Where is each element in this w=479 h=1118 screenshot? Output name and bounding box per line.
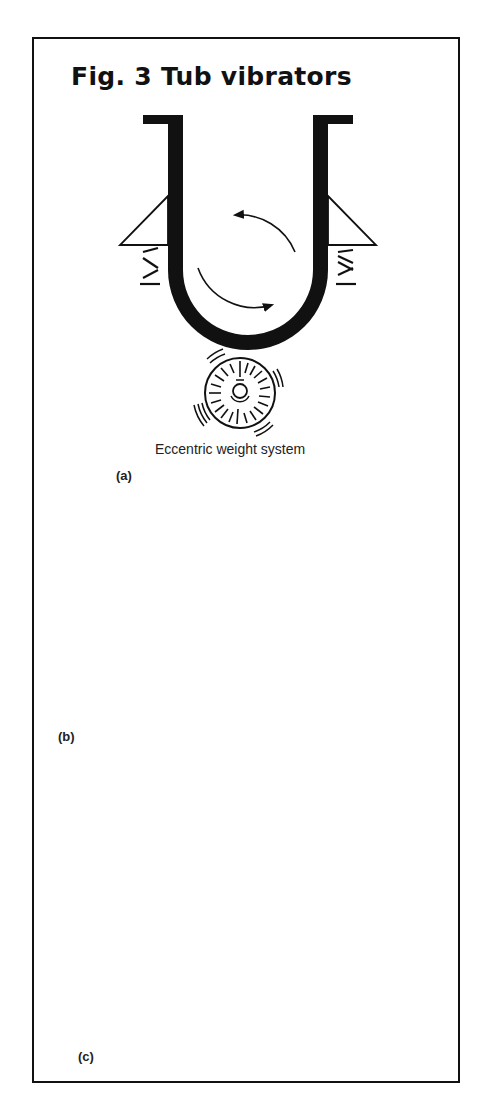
panel-a-caption: Eccentric weight system — [155, 441, 305, 457]
tub-vibrators-diagram — [0, 0, 479, 1118]
panel-c-label: (c) — [78, 1049, 94, 1064]
panel-a-diagram — [120, 115, 376, 436]
panel-b-label: (b) — [58, 729, 75, 744]
panel-a-label: (a) — [116, 468, 132, 483]
